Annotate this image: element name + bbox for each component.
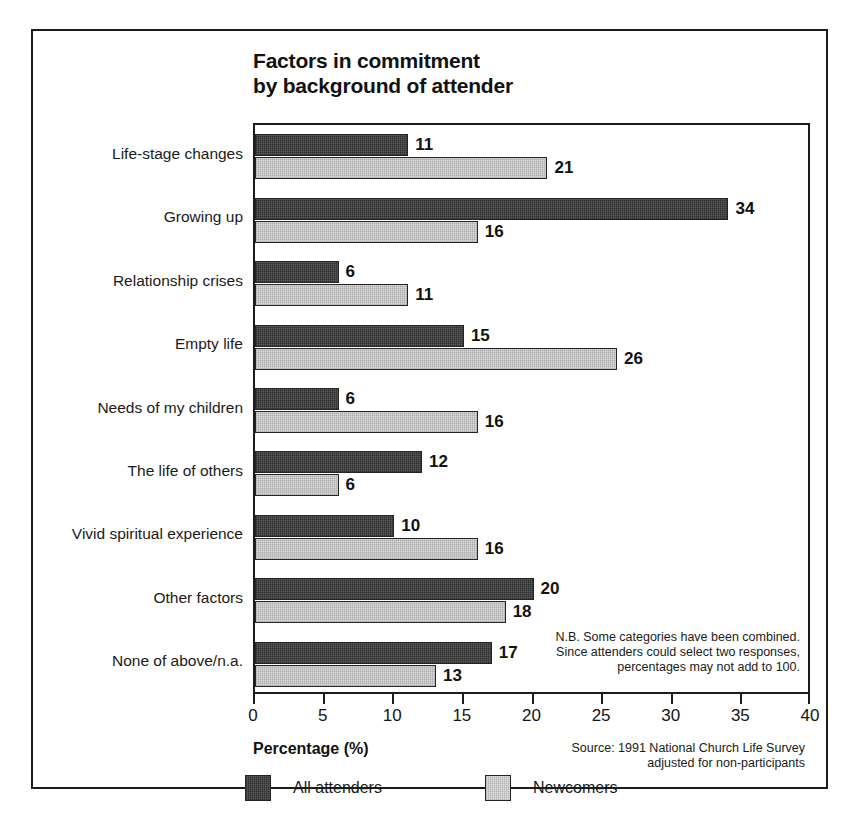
bar-row: 12	[255, 451, 808, 473]
bar-row: 16	[255, 221, 808, 243]
plot-area: 112134166111526616126101620181713	[253, 123, 810, 694]
bar-all-attenders[interactable]	[255, 451, 422, 473]
bar-row: 15	[255, 325, 808, 347]
bar-value-label: 16	[485, 412, 504, 432]
x-tick-label: 0	[248, 706, 257, 726]
bar-all-attenders[interactable]	[255, 261, 339, 283]
bar-value-label: 26	[624, 348, 643, 368]
bar-all-attenders[interactable]	[255, 578, 534, 600]
bar-value-label: 6	[346, 475, 355, 495]
x-tick-label: 5	[318, 706, 327, 726]
bar-row: 11	[255, 134, 808, 156]
bar-value-label: 11	[415, 285, 433, 305]
bar-value-label: 18	[513, 602, 532, 622]
bar-value-label: 20	[541, 579, 560, 599]
bar-all-attenders[interactable]	[255, 325, 464, 347]
bar-newcomers[interactable]	[255, 538, 478, 560]
chart-title-line-2: by background of attender	[253, 73, 793, 98]
legend-item-all-attenders[interactable]: All attenders	[245, 775, 382, 801]
footnote-line-3: percentages may not add to 100.	[470, 660, 800, 675]
bar-value-label: 16	[485, 221, 504, 241]
bar-group: 2018	[255, 569, 808, 632]
bar-all-attenders[interactable]	[255, 134, 408, 156]
bar-row: 21	[255, 157, 808, 179]
source-note: Source: 1991 National Church Life Survey…	[500, 741, 805, 771]
bar-newcomers[interactable]	[255, 665, 436, 687]
footnote-line-1: N.B. Some categories have been combined.	[470, 630, 800, 645]
bar-value-label: 34	[735, 198, 754, 218]
x-axis-title: Percentage (%)	[253, 740, 369, 758]
x-tick-label: 35	[731, 706, 750, 726]
bar-value-label: 16	[485, 538, 504, 558]
bar-value-label: 10	[401, 515, 420, 535]
x-tick-mark	[253, 694, 255, 704]
category-label: Life-stage changes	[28, 145, 243, 163]
bar-value-label: 12	[429, 452, 448, 472]
x-axis: 0510152025303540	[253, 694, 810, 734]
legend-swatch-icon	[485, 775, 511, 801]
x-tick-label: 30	[661, 706, 680, 726]
bar-group: 611	[255, 252, 808, 315]
bar-group: 1526	[255, 315, 808, 378]
category-label: Growing up	[28, 208, 243, 226]
bar-newcomers[interactable]	[255, 411, 478, 433]
x-tick-label: 25	[592, 706, 611, 726]
category-label: Other factors	[28, 589, 243, 607]
category-label: Empty life	[28, 335, 243, 353]
bar-group: 616	[255, 379, 808, 442]
x-tick-mark	[808, 694, 810, 704]
x-tick-mark	[532, 694, 534, 704]
bar-group: 1016	[255, 506, 808, 569]
bar-row: 6	[255, 388, 808, 410]
bar-row: 6	[255, 474, 808, 496]
bar-row: 20	[255, 578, 808, 600]
x-tick-mark	[601, 694, 603, 704]
bar-value-label: 6	[346, 389, 355, 409]
bar-newcomers[interactable]	[255, 474, 339, 496]
source-line-1: Source: 1991 National Church Life Survey	[500, 741, 805, 756]
legend-swatch-icon	[245, 775, 271, 801]
x-tick-mark	[671, 694, 673, 704]
bar-group: 3416	[255, 188, 808, 251]
footnote-note: N.B. Some categories have been combined.…	[470, 630, 800, 675]
bar-row: 34	[255, 198, 808, 220]
category-label: Needs of my children	[28, 399, 243, 417]
x-tick-mark	[392, 694, 394, 704]
category-label: None of above/n.a.	[28, 652, 243, 670]
bar-value-label: 13	[443, 665, 462, 685]
bar-row: 6	[255, 261, 808, 283]
bar-newcomers[interactable]	[255, 221, 478, 243]
bar-all-attenders[interactable]	[255, 198, 728, 220]
bar-row: 11	[255, 284, 808, 306]
bar-newcomers[interactable]	[255, 157, 547, 179]
bar-value-label: 11	[415, 135, 433, 155]
x-tick-mark	[462, 694, 464, 704]
bar-newcomers[interactable]	[255, 601, 506, 623]
x-tick-label: 10	[383, 706, 402, 726]
legend-item-newcomers[interactable]: Newcomers	[485, 775, 617, 801]
bar-newcomers[interactable]	[255, 284, 408, 306]
x-tick-mark	[740, 694, 742, 704]
category-axis-labels: Life-stage changesGrowing upRelationship…	[28, 123, 243, 694]
x-tick-mark	[323, 694, 325, 704]
category-label: The life of others	[28, 462, 243, 480]
bar-row: 18	[255, 601, 808, 623]
bar-all-attenders[interactable]	[255, 642, 492, 664]
category-label: Vivid spiritual experience	[28, 525, 243, 543]
source-line-2: adjusted for non-participants	[500, 756, 805, 771]
footnote-line-2: Since attenders could select two respons…	[470, 645, 800, 660]
x-tick-label: 40	[801, 706, 820, 726]
legend-label: All attenders	[293, 779, 382, 797]
bar-row: 10	[255, 515, 808, 537]
bar-value-label: 6	[346, 262, 355, 282]
bar-newcomers[interactable]	[255, 348, 617, 370]
bar-value-label: 15	[471, 325, 490, 345]
bar-all-attenders[interactable]	[255, 388, 339, 410]
x-tick-label: 15	[452, 706, 471, 726]
bar-all-attenders[interactable]	[255, 515, 394, 537]
chart-figure: Factors in commitment by background of a…	[0, 0, 860, 818]
legend-label: Newcomers	[533, 779, 617, 797]
bar-row: 16	[255, 538, 808, 560]
category-label: Relationship crises	[28, 272, 243, 290]
bar-group: 126	[255, 442, 808, 505]
